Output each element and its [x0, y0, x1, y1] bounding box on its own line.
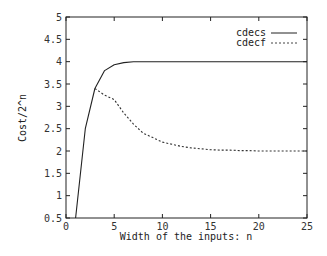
y-tick-label: 0.5	[44, 213, 62, 224]
x-tick-label: 20	[253, 221, 265, 232]
y-tick-label: 1.5	[44, 168, 62, 179]
y-tick-label: 3.5	[44, 79, 62, 90]
axis-ticks: 05101520250.511.522.533.544.55	[44, 12, 313, 233]
legend-label-cdecf: cdecf	[236, 37, 266, 48]
y-tick-label: 4.5	[44, 34, 62, 45]
series-line-cdecf	[95, 89, 307, 152]
y-tick-label: 1	[56, 190, 62, 201]
y-tick-label: 3	[56, 101, 62, 112]
x-tick-label: 25	[301, 221, 313, 232]
line-chart: 05101520250.511.522.533.544.55 Width of …	[0, 0, 327, 256]
y-tick-label: 5	[56, 12, 62, 23]
series-layer	[76, 62, 307, 218]
y-tick-label: 2	[56, 146, 62, 157]
x-axis-label: Width of the inputs: n	[120, 231, 252, 242]
plot-border	[66, 17, 307, 218]
y-axis-label: Cost/2^n	[17, 94, 28, 142]
x-tick-label: 0	[63, 221, 69, 232]
plot-frame	[66, 17, 307, 218]
legend: cdecs cdecf	[236, 27, 297, 48]
series-line-cdecs	[76, 62, 307, 218]
y-tick-label: 4	[56, 56, 62, 67]
y-tick-label: 2.5	[44, 123, 62, 134]
x-tick-label: 5	[111, 221, 117, 232]
